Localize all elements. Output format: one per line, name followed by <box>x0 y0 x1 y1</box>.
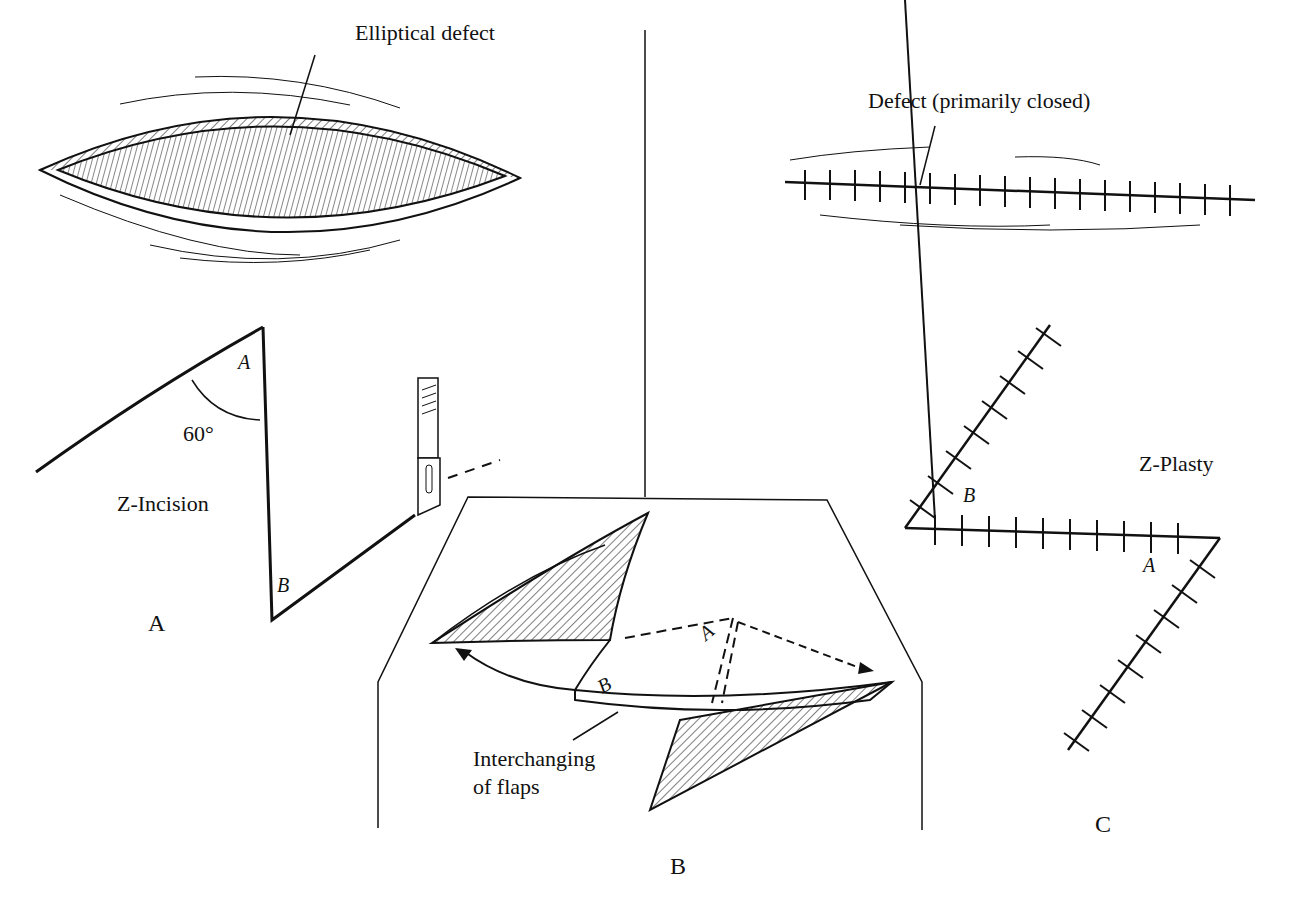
point-label-a: A <box>238 352 250 372</box>
panel-label-c: C <box>1095 812 1111 836</box>
elliptical-defect-drawing <box>40 55 520 263</box>
panel-c-point-a: A <box>1143 555 1155 575</box>
closed-defect-suture <box>785 126 1255 230</box>
callout-elliptical-defect: Elliptical defect <box>355 22 495 44</box>
z-plasty-diagram <box>0 0 1307 902</box>
angle-label: 60° <box>183 423 214 445</box>
caption-interchanging-flaps: Interchanging of flaps <box>473 745 595 801</box>
panel-label-a: A <box>148 611 165 635</box>
panel-b-frame <box>378 497 922 830</box>
caption-z-incision: Z-Incision <box>117 493 209 515</box>
z-incision-drawing <box>36 327 500 620</box>
panel-c-point-b: B <box>963 485 975 505</box>
caption-z-plasty: Z-Plasty <box>1139 453 1214 475</box>
scalpel-icon <box>418 378 440 515</box>
callout-defect-closed: Defect (primarily closed) <box>868 90 1090 112</box>
panel-label-b: B <box>670 854 686 878</box>
point-label-b: B <box>277 575 289 595</box>
